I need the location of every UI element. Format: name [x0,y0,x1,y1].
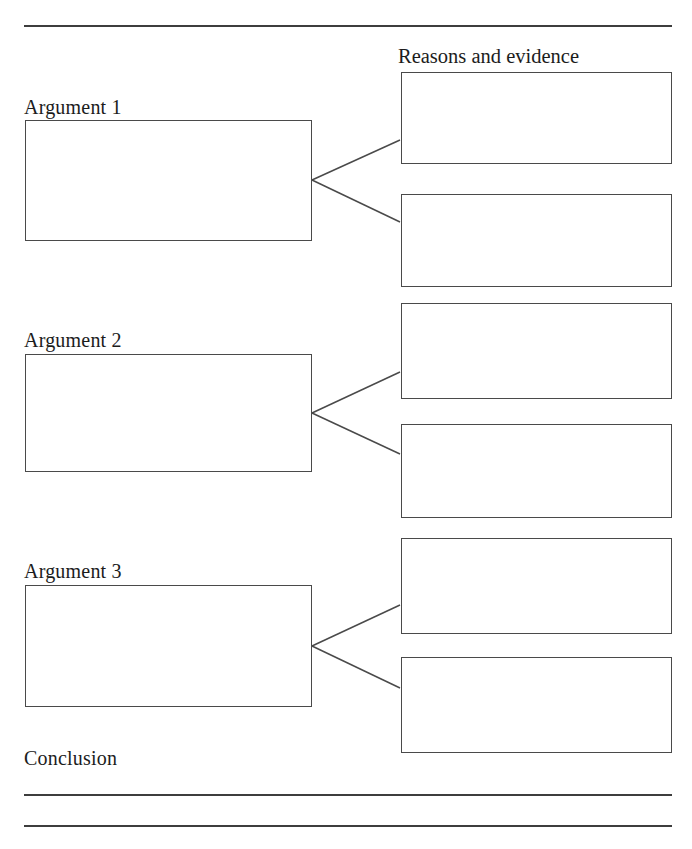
argument-1-box[interactable] [25,120,312,241]
argument-2-box[interactable] [25,354,312,472]
argument-2-label: Argument 2 [24,330,122,350]
evidence-box-3a[interactable] [401,538,672,634]
connector-2-upper [312,372,400,413]
reasons-and-evidence-header: Reasons and evidence [398,46,579,67]
argument-1-label: Argument 1 [24,97,122,117]
connector-3-upper [312,605,400,646]
evidence-box-2b[interactable] [401,424,672,518]
argument-3-box[interactable] [25,585,312,707]
connector-1-lower [312,180,400,222]
worksheet-page: Reasons and evidence Argument 1 Argument… [0,0,692,849]
conclusion-label: Conclusion [24,748,117,768]
connector-1-upper [312,140,400,180]
connector-2-lower [312,413,400,454]
evidence-box-3b[interactable] [401,657,672,753]
evidence-box-2a[interactable] [401,303,672,399]
connector-3-lower [312,646,400,688]
argument-3-label: Argument 3 [24,561,122,581]
evidence-box-1a[interactable] [401,72,672,164]
evidence-box-1b[interactable] [401,194,672,287]
